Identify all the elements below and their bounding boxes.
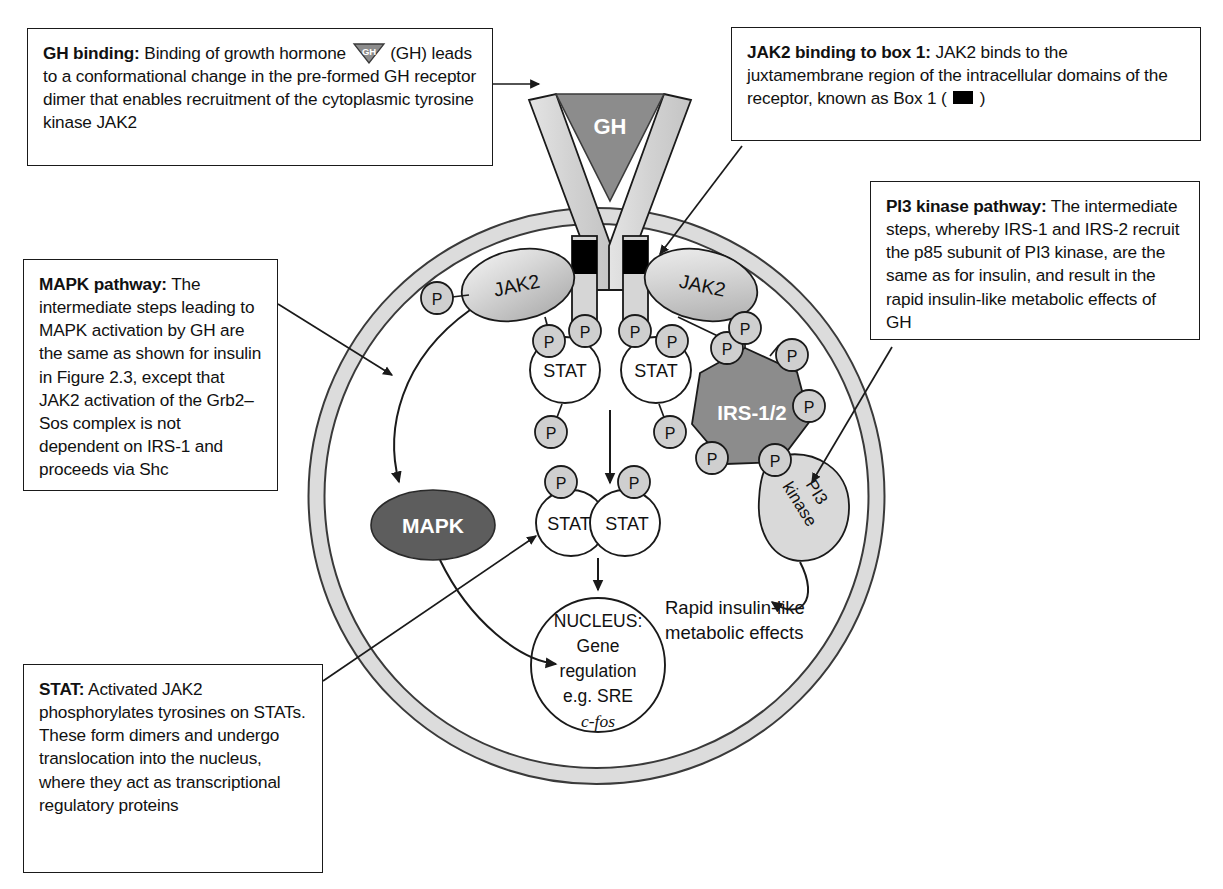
nucleus-line-2: Gene — [577, 636, 620, 656]
caption-pi3-kinase-lead: PI3 kinase pathway: — [886, 196, 1047, 216]
box1-motif-right — [623, 240, 648, 274]
caption-mapk-pathway-text: The intermediate steps leading to MAPK a… — [39, 274, 261, 479]
phosphate-group: P — [729, 312, 761, 344]
phosphate-group: P — [545, 466, 577, 498]
gh-triangle-icon: GH — [352, 42, 386, 64]
caption-stat-lead: STAT: — [39, 679, 84, 699]
irs-label: IRS-1/2 — [717, 401, 787, 424]
phosphate-group: P — [656, 325, 688, 357]
caption-gh-binding-lead: GH binding: — [43, 43, 140, 63]
stat-monomer-right-label: STAT — [634, 361, 677, 381]
nucleus-line-4: e.g. SRE — [563, 686, 633, 706]
svg-text:GH: GH — [362, 46, 376, 57]
effects-line-2: metabolic effects — [665, 622, 803, 643]
svg-text:P: P — [667, 334, 678, 351]
caption-pi3-kinase: PI3 kinase pathway: The intermediate ste… — [870, 181, 1200, 340]
phosphate-group: P — [619, 315, 651, 347]
mapk-node: MAPK — [371, 490, 495, 560]
figure-canvas: GH JAK2 JAK2 — [0, 0, 1223, 889]
stat-monomer-left-label: STAT — [543, 361, 586, 381]
stat-dimer-right-label: STAT — [605, 514, 648, 534]
caption-stat: STAT: Activated JAK2 phosphorylates tyro… — [23, 664, 323, 873]
phosphate-group: P — [759, 444, 791, 476]
caption-stat-text: Activated JAK2 phosphorylates tyrosines … — [39, 679, 306, 815]
phosphate-group: P — [535, 416, 567, 448]
svg-text:P: P — [770, 453, 781, 470]
gh-label: GH — [594, 114, 627, 139]
nucleus-line-3: regulation — [560, 661, 637, 681]
svg-text:P: P — [630, 324, 641, 341]
caption-mapk-pathway-lead: MAPK pathway: — [39, 274, 167, 294]
caption-gh-binding: GH binding: Binding of growth hormone GH… — [27, 28, 493, 166]
phosphate-group: P — [421, 282, 453, 314]
svg-text:P: P — [546, 425, 557, 442]
caption-jak2-box1-lead: JAK2 binding to box 1: — [747, 42, 931, 62]
svg-text:P: P — [804, 399, 815, 416]
phosphate-group: P — [793, 390, 825, 422]
svg-text:P: P — [580, 324, 591, 341]
nucleus: NUCLEUS: Gene regulation e.g. SRE c-fos — [531, 598, 665, 732]
svg-text:P: P — [629, 475, 640, 492]
phosphate-group: P — [654, 416, 686, 448]
mapk-label: MAPK — [402, 514, 464, 537]
svg-text:P: P — [787, 348, 798, 365]
svg-text:P: P — [544, 334, 555, 351]
phosphate-group: P — [533, 325, 565, 357]
caption-jak2-box1: JAK2 binding to box 1: JAK2 binds to the… — [731, 27, 1201, 141]
phosphate-group: P — [618, 466, 650, 498]
caption-gh-binding-text-a: Binding of growth hormone — [140, 43, 351, 63]
box1-motif-left — [572, 240, 597, 274]
svg-text:P: P — [556, 475, 567, 492]
svg-text:P: P — [665, 425, 676, 442]
nucleus-line-5: c-fos — [581, 711, 615, 731]
box1-swatch-icon — [953, 91, 973, 104]
caption-jak2-box1-text-b: ) — [975, 88, 985, 108]
svg-text:P: P — [432, 291, 443, 308]
caption-pi3-kinase-text: The intermediate steps, whereby IRS-1 an… — [886, 196, 1179, 332]
nucleus-line-1: NUCLEUS: — [554, 611, 643, 631]
svg-text:P: P — [722, 341, 733, 358]
svg-text:P: P — [740, 321, 751, 338]
phosphate-group: P — [569, 315, 601, 347]
stat-dimer-left-label: STAT — [547, 514, 590, 534]
svg-text:P: P — [707, 451, 718, 468]
phosphate-group: P — [696, 442, 728, 474]
phosphate-group: P — [776, 339, 808, 371]
caption-mapk-pathway: MAPK pathway: The intermediate steps lea… — [23, 259, 278, 491]
